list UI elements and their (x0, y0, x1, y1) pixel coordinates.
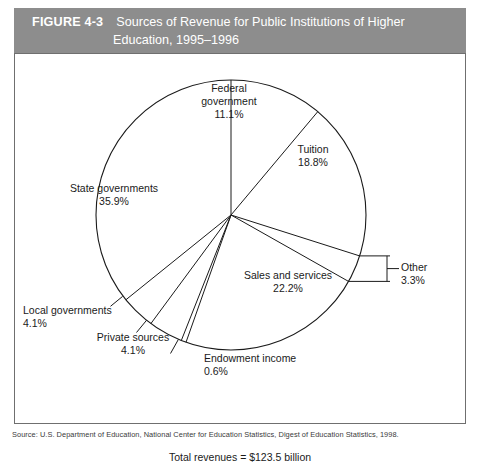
slice-label-state-name: State governments (44, 182, 184, 195)
slice-label-endowment-pct: 0.6% (204, 365, 344, 378)
slice-label-federal-government: Federal government 11.1% (169, 82, 289, 121)
slice-label-federal-name-line2: government (169, 95, 289, 108)
slice-label-tuition: Tuition 18.8% (273, 143, 353, 169)
figure-title-line1: Sources of Revenue for Public Institutio… (116, 15, 404, 29)
slice-label-local-pct: 4.1% (23, 317, 143, 330)
slice-label-federal-pct: 11.1% (169, 108, 289, 121)
figure-header-bar: FIGURE 4-3Sources of Revenue for Public … (14, 8, 466, 53)
slice-label-private-name: Private sources (73, 331, 193, 344)
slice-label-private-sources: Private sources 4.1% (73, 331, 193, 357)
slice-label-other-name: Other (401, 261, 463, 274)
slice-label-tuition-pct: 18.8% (273, 156, 353, 169)
slice-label-endowment-name: Endowment income (204, 352, 344, 365)
slice-label-sales-name: Sales and services (223, 269, 353, 282)
chart-panel: Federal government 11.1% Tuition 18.8% O… (14, 53, 466, 424)
source-note: Source: U.S. Department of Education, Na… (12, 431, 467, 439)
slice-label-federal-name-line1: Federal (169, 82, 289, 95)
slice-label-sales-pct: 22.2% (223, 282, 353, 295)
slice-label-local-governments: Local governments 4.1% (23, 304, 143, 330)
slice-label-tuition-name: Tuition (273, 143, 353, 156)
slice-label-state-governments: State governments 35.9% (44, 182, 184, 208)
slice-label-local-name: Local governments (23, 304, 143, 317)
slice-label-private-pct: 4.1% (73, 344, 193, 357)
figure-number: FIGURE 4-3 (32, 15, 103, 29)
source-note-strip: Source: U.S. Department of Education, Na… (12, 431, 467, 439)
slice-label-sales-and-services: Sales and services 22.2% (223, 269, 353, 295)
slice-label-state-pct: 35.9% (44, 195, 184, 208)
slice-label-other: Other 3.3% (401, 261, 463, 287)
slice-label-endowment-income: Endowment income 0.6% (204, 352, 344, 378)
total-revenues-caption: Total revenues = $123.5 billion (15, 451, 465, 463)
figure-header-text: FIGURE 4-3Sources of Revenue for Public … (32, 14, 456, 48)
figure-title-line2: Education, 1995–1996 (113, 32, 456, 49)
slice-label-other-pct: 3.3% (401, 274, 463, 287)
